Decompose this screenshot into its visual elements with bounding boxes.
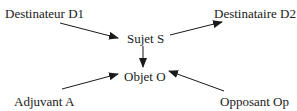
node-destinataire: Destinataire D2 bbox=[214, 7, 296, 21]
node-sujet: Sujet S bbox=[127, 32, 164, 46]
node-destinateur: Destinateur D1 bbox=[5, 7, 84, 21]
node-adjuvant: Adjuvant A bbox=[14, 95, 74, 109]
edge-adjuvant-to-objet bbox=[62, 74, 118, 89]
edge-sujet-to-destinataire bbox=[170, 22, 222, 35]
node-opposant: Opposant Op bbox=[220, 95, 289, 109]
edge-destinateur-to-sujet bbox=[60, 23, 118, 38]
edge-opposant-to-objet bbox=[169, 71, 224, 91]
node-objet: Objet O bbox=[124, 70, 166, 84]
